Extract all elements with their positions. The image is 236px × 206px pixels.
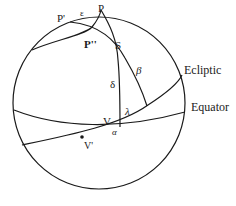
label-equator: Equator bbox=[191, 100, 229, 114]
equator-line bbox=[14, 110, 185, 125]
celestial-sphere-diagram: P' ε P P'' S β δ λ V α V' Ecliptic Equat… bbox=[0, 0, 236, 206]
label-epsilon: ε bbox=[80, 8, 84, 18]
v-prime-point bbox=[80, 135, 84, 139]
ecliptic-line bbox=[22, 75, 182, 145]
hour-circle-delta bbox=[101, 10, 120, 127]
label-s: S bbox=[115, 39, 121, 51]
label-v: V bbox=[103, 115, 111, 127]
label-alpha: α bbox=[112, 127, 117, 137]
label-p: P bbox=[98, 2, 104, 14]
label-beta: β bbox=[135, 64, 142, 76]
label-delta: δ bbox=[110, 78, 115, 90]
label-lambda: λ bbox=[124, 105, 130, 117]
sphere-outline bbox=[13, 17, 185, 189]
label-v-prime: V' bbox=[84, 140, 93, 151]
label-p-prime: P' bbox=[57, 12, 65, 24]
label-ecliptic: Ecliptic bbox=[184, 63, 221, 77]
label-p-double-prime: P'' bbox=[84, 38, 97, 50]
